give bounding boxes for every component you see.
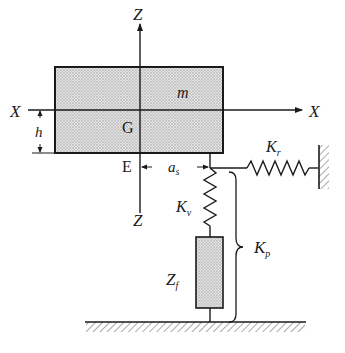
vertical-spring-label: Kv <box>175 198 192 218</box>
mass-label: m <box>177 84 189 101</box>
x-axis-right-label: X <box>308 102 320 121</box>
vertical-spring <box>204 153 216 237</box>
ground <box>85 322 306 332</box>
center-of-gravity-label: G <box>122 119 134 136</box>
z-axis-top-label: Z <box>133 5 143 24</box>
x-axis-left-label: X <box>9 102 21 121</box>
horizontal-spring-label: Kr <box>265 138 281 158</box>
mechanical-diagram: Z Z X X m G h E as Kv Kr <box>0 0 345 353</box>
stiffness-brace <box>229 172 243 322</box>
height-label: h <box>35 124 43 140</box>
horizontal-spring <box>210 161 318 175</box>
total-stiffness-label: Kp <box>253 238 270 259</box>
point-e-label: E <box>122 158 132 175</box>
damper-label: Zf <box>166 270 179 291</box>
wall <box>319 145 329 189</box>
z-axis-bottom-label: Z <box>133 211 143 230</box>
damper <box>196 237 223 322</box>
offset-label: as <box>168 159 180 177</box>
